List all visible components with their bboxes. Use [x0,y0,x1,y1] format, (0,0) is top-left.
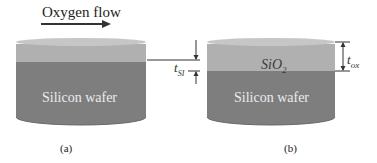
tsi-label: tSI [174,61,184,78]
caption-b: (b) [284,143,297,154]
sio2-text: SiO [261,57,282,72]
oxygen-flow-label: Oxygen flow [42,5,121,20]
sio2-label: SiO2 [261,58,287,75]
wafer-cylinder-a [16,38,146,125]
sio2-subscript: 2 [282,65,287,75]
tox-label: tox [347,53,359,70]
oxygen-flow-arrow [41,20,111,28]
caption-a: (a) [60,143,72,154]
tsi-subscript: SI [178,69,185,78]
silicon-wafer-label-a: Silicon wafer [42,91,117,105]
tox-subscript: ox [351,60,360,70]
diagram-canvas [0,0,377,163]
silicon-wafer-label-b: Silicon wafer [234,91,309,105]
wafer-cylinder-b [207,38,335,125]
